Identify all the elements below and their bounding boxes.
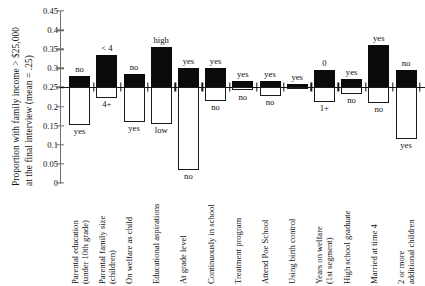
baseline-tick xyxy=(202,83,203,92)
bar-segment-upper xyxy=(96,55,117,87)
bar-segment-lower xyxy=(341,87,362,94)
bar-segment-lower xyxy=(205,87,226,100)
bar-segment-lower xyxy=(69,87,90,124)
x-category-label-line: (under 10th grade) xyxy=(80,184,91,284)
bar-segment-upper xyxy=(341,79,362,87)
baseline-tick xyxy=(174,83,175,92)
bar-lower-value-label: low xyxy=(155,125,168,135)
bar-upper-value-label: yes xyxy=(264,69,275,79)
x-category-label-line: Continuously in school xyxy=(206,184,217,284)
bar-upper-value-label: high xyxy=(154,35,169,45)
bar-segment-lower xyxy=(151,87,172,123)
x-category-label-line: Attend Poe School xyxy=(260,184,271,284)
bar-segment-lower xyxy=(178,87,199,169)
bar-segment-upper xyxy=(314,70,335,87)
bar-lower-value-label: yes xyxy=(128,123,139,133)
bar-segment-lower xyxy=(368,87,389,102)
bar-segment-upper xyxy=(151,47,172,87)
x-category-label-line: Using birth control xyxy=(287,184,298,284)
bar-lower-value-label: no xyxy=(211,102,220,112)
bar-segment-upper xyxy=(124,74,145,87)
baseline-tick xyxy=(93,83,94,92)
baseline-tick xyxy=(365,83,366,92)
bar-upper-value-label: no xyxy=(130,62,139,72)
bar-segment-upper xyxy=(205,68,226,87)
plot-area: noyes< 44+noyeshighlowyesnoyesnoyesnoyes… xyxy=(60,0,425,190)
bar-upper-value-label: yes xyxy=(183,56,194,66)
bar-upper-value-label: yes xyxy=(373,33,384,43)
baseline-tick xyxy=(283,83,284,92)
bar-segment-upper xyxy=(178,68,199,87)
bar-lower-value-label: no xyxy=(239,92,248,102)
bar-lower-value-label: 4+ xyxy=(102,99,111,109)
baseline-tick xyxy=(338,83,339,92)
bar-upper-value-label: yes xyxy=(210,56,221,66)
baseline-tick xyxy=(147,83,148,92)
bar-segment-upper xyxy=(396,70,417,87)
bar-upper-value-label: < 4 xyxy=(101,43,112,53)
x-category-label-line: Educational aspirations xyxy=(151,184,162,284)
bar-segment-lower xyxy=(314,87,335,102)
bar-segment-lower xyxy=(260,87,281,95)
x-category-label-line: additional children xyxy=(406,184,417,284)
bar-lower-value-label: 1+ xyxy=(320,103,329,113)
x-category-label-line: On welfare as child xyxy=(124,184,135,284)
bar-lower-value-label: no xyxy=(347,95,356,105)
baseline-tick xyxy=(310,83,311,92)
y-axis-tick-labels: 00.050.10.150.20.250.30.350.40.45 xyxy=(26,0,58,190)
bar-upper-value-label: no xyxy=(402,58,411,68)
bar-lower-value-label: no xyxy=(184,171,193,181)
bar-segment-upper xyxy=(69,76,90,87)
chart-root: Proportion with family income > $25,000 … xyxy=(0,0,425,286)
bar-upper-value-label: yes xyxy=(237,69,248,79)
x-category-label-line: High school graduate xyxy=(342,184,353,284)
bar-lower-value-label: no xyxy=(266,97,275,107)
bar-upper-value-label: 0 xyxy=(322,58,326,68)
bar-segment-lower xyxy=(96,87,117,98)
bar-segment-lower xyxy=(396,87,417,139)
bar-lower-value-label: yes xyxy=(74,126,85,136)
bar-segment-lower xyxy=(287,87,308,89)
bar-segment-upper xyxy=(368,45,389,87)
bar-lower-value-label: yes xyxy=(400,140,411,150)
bar-lower-value-label: no xyxy=(375,104,384,114)
baseline-tick xyxy=(120,83,121,92)
bar-upper-value-label: no xyxy=(75,64,84,74)
bar-upper-value-label: yes xyxy=(346,67,357,77)
baseline-tick xyxy=(392,83,393,92)
x-category-label-line: Married at time 4 xyxy=(369,184,380,284)
bar-segment-lower xyxy=(232,87,253,90)
bar-segment-lower xyxy=(124,87,145,121)
baseline-tick xyxy=(256,83,257,92)
bar-segment-upper xyxy=(260,81,281,88)
x-axis-category-labels: Parental education(under 10th grade)Pare… xyxy=(60,188,425,286)
bar-upper-value-label: yes xyxy=(291,72,302,82)
baseline-tick xyxy=(229,83,230,92)
x-category-label-line: Parental education xyxy=(70,184,81,284)
x-category-label-line: (1st segment) xyxy=(324,184,335,284)
baseline-tick xyxy=(419,83,420,92)
x-category-label-line: At grade level xyxy=(178,184,189,284)
x-category-label-line: (children) xyxy=(107,184,118,284)
x-category-label-line: Treatment program xyxy=(233,184,244,284)
